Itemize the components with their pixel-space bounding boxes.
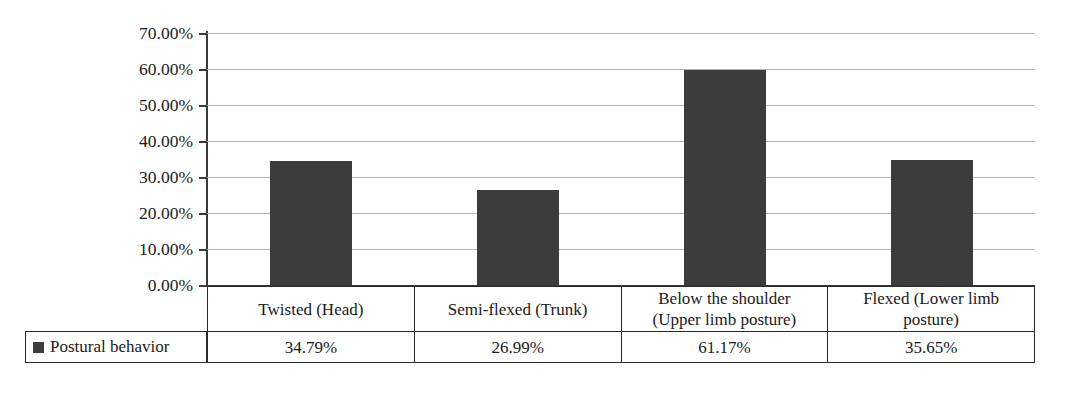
y-axis-tick-label: 40.00%: [78, 132, 193, 150]
legend-entry: Postural behavior: [25, 331, 207, 363]
category-header-3-line1: Below the shoulder: [658, 289, 790, 308]
category-header-4-line2: posture): [863, 309, 999, 330]
plot-area: [207, 33, 1035, 285]
value-cell-1: 34.79%: [207, 331, 414, 363]
header-legend-spacer: [25, 286, 207, 331]
table-value-row: Postural behavior 34.79% 26.99% 61.17% 3…: [25, 331, 1035, 363]
bar: [477, 190, 559, 285]
value-cell-2: 26.99%: [414, 331, 621, 363]
gridline: [207, 141, 1035, 142]
legend-swatch-icon: [33, 342, 44, 353]
y-axis-tick-label: 70.00%: [78, 24, 193, 42]
y-axis-tick-label: 60.00%: [78, 60, 193, 78]
y-axis-tick-label: 10.00%: [78, 240, 193, 258]
gridline: [207, 105, 1035, 106]
category-header-3: Below the shoulder (Upper limb posture): [621, 286, 828, 331]
y-axis-tick-label: 50.00%: [78, 96, 193, 114]
y-axis-tick-label: 30.00%: [78, 168, 193, 186]
bar: [684, 70, 766, 285]
table-header-row: Twisted (Head) Semi-flexed (Trunk) Below…: [25, 286, 1035, 331]
category-header-1-line1: Twisted (Head): [258, 300, 363, 319]
gridline: [207, 69, 1035, 70]
bar-chart-figure: 70.00%60.00%50.00%40.00%30.00%20.00%10.0…: [0, 0, 1067, 399]
category-header-4-line1: Flexed (Lower limb: [863, 289, 999, 308]
category-header-2: Semi-flexed (Trunk): [414, 286, 621, 331]
legend-label: Postural behavior: [50, 337, 169, 357]
bar: [270, 161, 352, 285]
value-cell-4: 35.65%: [827, 331, 1035, 363]
bar: [891, 160, 973, 285]
gridline: [207, 33, 1035, 34]
category-header-2-line1: Semi-flexed (Trunk): [448, 300, 588, 319]
y-axis-tick-label: 20.00%: [78, 204, 193, 222]
category-header-3-line2: (Upper limb posture): [653, 309, 797, 330]
data-table: Twisted (Head) Semi-flexed (Trunk) Below…: [25, 286, 1035, 363]
category-header-4: Flexed (Lower limb posture): [827, 286, 1035, 331]
value-cell-3: 61.17%: [621, 331, 828, 363]
category-header-1: Twisted (Head): [207, 286, 414, 331]
